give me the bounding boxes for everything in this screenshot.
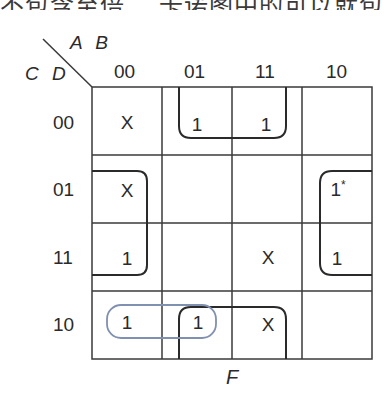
cell-r10-c11: X bbox=[262, 315, 275, 334]
col-label-10: 10 bbox=[326, 62, 347, 81]
col-label-01: 01 bbox=[184, 62, 205, 81]
function-label: F bbox=[226, 367, 242, 387]
cell-r01-c10: 1* bbox=[330, 180, 345, 199]
row-variables-label: C D bbox=[25, 64, 70, 83]
cell-r10-c00: 1 bbox=[122, 313, 133, 332]
star-mark: * bbox=[341, 178, 346, 192]
cell-r00-c11: 1 bbox=[261, 115, 272, 134]
row-label-10: 10 bbox=[53, 315, 74, 334]
cell-r11-c10: 1 bbox=[332, 249, 343, 268]
cell-r11-c11: X bbox=[262, 248, 275, 267]
cell-r01-c00: X bbox=[121, 181, 134, 200]
col-label-00: 00 bbox=[114, 62, 135, 81]
cell-r00-c01: 1 bbox=[192, 115, 203, 134]
cell-r00-c00: X bbox=[121, 113, 134, 132]
cell-r10-c01: 1 bbox=[193, 313, 204, 332]
row-label-01: 01 bbox=[53, 180, 74, 199]
col-label-11: 11 bbox=[255, 62, 275, 81]
row-label-11: 11 bbox=[53, 248, 73, 267]
cell-r11-c00: 1 bbox=[122, 249, 133, 268]
col-variables-label: A B bbox=[70, 33, 112, 52]
cell-value: 1 bbox=[330, 179, 341, 200]
row-label-00: 00 bbox=[53, 113, 74, 132]
